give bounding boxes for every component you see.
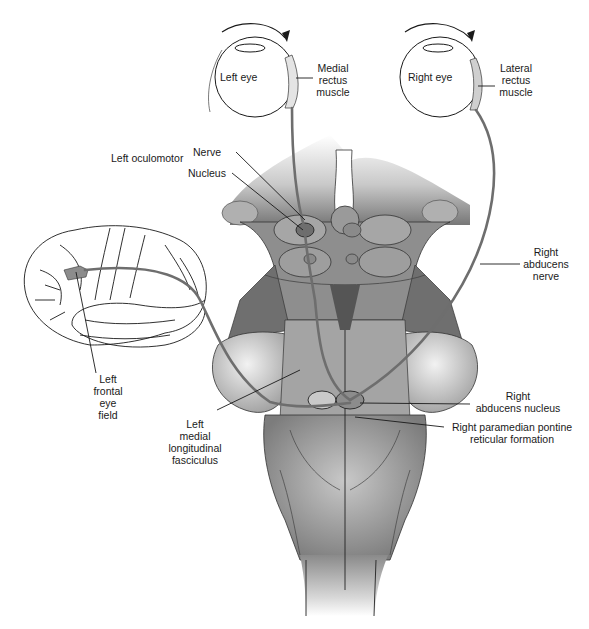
label-medial-rectus-muscle: Medial rectus muscle xyxy=(313,62,353,98)
brainstem xyxy=(212,135,477,616)
gaze-pathway-diagram: Left eye Right eye Medial rectus muscle … xyxy=(0,0,589,629)
label-right-pprf: Right paramedian pontine reticular forma… xyxy=(446,421,578,445)
label-left-frontal-eye-field: Left frontal eye field xyxy=(90,373,126,421)
label-nerve: Nerve xyxy=(193,146,221,158)
label-right-abducens-nerve: Right abducens nerve xyxy=(520,246,572,282)
label-left-eye: Left eye xyxy=(220,71,257,83)
left-cerebral-hemisphere xyxy=(24,226,206,347)
label-lateral-rectus-muscle: Lateral rectus muscle xyxy=(495,62,537,98)
label-right-abducens-nucleus: Right abducens nucleus xyxy=(470,390,566,414)
label-nucleus: Nucleus xyxy=(188,167,226,179)
label-right-eye: Right eye xyxy=(408,71,452,83)
label-left-oculomotor: Left oculomotor xyxy=(111,152,183,164)
label-left-medial-longitudinal-fasciculus: Left medial longitudinal fasciculus xyxy=(160,418,230,466)
